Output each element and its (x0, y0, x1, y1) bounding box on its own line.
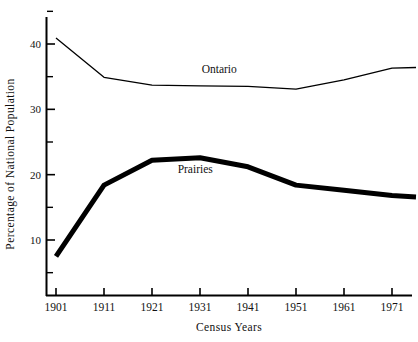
y-axis-tick-labels: 10203040 (30, 38, 42, 246)
series-label-prairies: Prairies (178, 163, 214, 175)
y-tick-label: 20 (30, 169, 42, 181)
x-tick-label: 1951 (285, 301, 308, 313)
x-axis-ticks (56, 288, 392, 295)
chart-plot-area: 10203040 1901191119211931194119511961197… (0, 0, 418, 342)
x-tick-label: 1941 (237, 301, 260, 313)
x-tick-label: 1971 (381, 301, 404, 313)
x-tick-label: 1961 (333, 301, 356, 313)
series-line-prairies (56, 158, 416, 257)
x-tick-label: 1911 (93, 301, 116, 313)
y-tick-label: 30 (30, 103, 42, 115)
x-axis-tick-labels: 19011911192119311941195119611971 (45, 301, 404, 313)
y-tick-label: 40 (30, 38, 42, 50)
x-axis-title: Census Years (196, 321, 262, 333)
y-tick-label: 10 (30, 234, 42, 246)
x-tick-label: 1921 (141, 301, 164, 313)
y-axis-title: Percentage of National Population (4, 78, 17, 249)
y-axis-ticks (47, 11, 55, 272)
series-label-ontario: Ontario (202, 63, 237, 75)
x-tick-label: 1901 (45, 301, 68, 313)
x-tick-label: 1931 (189, 301, 212, 313)
chart-figure: 10203040 1901191119211931194119511961197… (0, 0, 418, 342)
